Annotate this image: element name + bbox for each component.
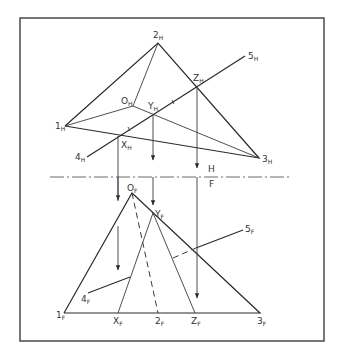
svg-text:OH: OH: [121, 96, 133, 107]
hidden-line-5f: [173, 248, 196, 258]
descriptive-geometry-diagram: 2H 1H 3H OH YH ZH XH 4H 5H H F OF YF 1F …: [0, 0, 337, 350]
edge-1h-oh: [65, 106, 133, 126]
svg-text:3H: 3H: [262, 154, 272, 165]
svg-text:ZH: ZH: [193, 73, 204, 84]
line-yf-xf: [118, 213, 153, 313]
svg-text:4H: 4H: [75, 152, 85, 163]
front-view: [64, 177, 260, 313]
line-5f-segment: [196, 230, 243, 248]
line-yf-zf: [153, 213, 195, 313]
svg-text:OF: OF: [127, 183, 138, 194]
front-labels: OF YF 1F XF 2F ZF 3F 4F 5F: [56, 183, 267, 327]
edge-2h-oh: [133, 43, 158, 106]
edge-oh-3h: [133, 106, 259, 158]
line-4f-segment: [88, 277, 130, 293]
svg-text:5H: 5H: [248, 51, 258, 62]
svg-text:YH: YH: [147, 101, 158, 112]
svg-text:XF: XF: [113, 316, 123, 327]
fold-label-f: F: [209, 179, 214, 189]
svg-text:4F: 4F: [81, 294, 91, 305]
svg-text:2F: 2F: [155, 316, 165, 327]
svg-text:1H: 1H: [55, 121, 65, 132]
top-labels: 2H 1H 3H OH YH ZH XH 4H 5H H F: [55, 30, 272, 189]
line-4h-5h: [87, 56, 245, 157]
svg-text:XH: XH: [121, 140, 132, 151]
svg-text:3F: 3F: [257, 316, 267, 327]
drawing-frame: [20, 18, 324, 341]
svg-text:5F: 5F: [245, 224, 255, 235]
top-view: [65, 43, 259, 200]
svg-text:2H: 2H: [153, 30, 163, 41]
svg-text:YF: YF: [154, 209, 165, 220]
top-plane-triangle: [65, 43, 259, 158]
front-plane-triangle: [64, 193, 260, 313]
svg-text:ZF: ZF: [191, 316, 201, 327]
fold-label-h: H: [208, 164, 215, 174]
